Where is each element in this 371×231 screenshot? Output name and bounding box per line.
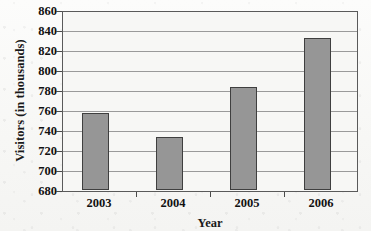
gridline-840	[63, 31, 357, 32]
bar-2006[interactable]	[304, 38, 331, 190]
x-tick-mark-1	[136, 192, 137, 197]
x-tick-label-2003: 2003	[67, 196, 131, 211]
x-axis-title: Year	[62, 216, 358, 231]
plot-area	[62, 11, 358, 192]
y-tick-label-860: 860	[0, 5, 57, 18]
y-tick-label-800: 800	[0, 65, 57, 78]
x-tick-label-2004: 2004	[141, 196, 205, 211]
x-tick-label-2005: 2005	[215, 196, 279, 211]
bar-chart: Visitors (in thousands) 860 840 820 800 …	[0, 0, 371, 231]
x-tick-label-2006: 2006	[289, 196, 353, 211]
bar-2004[interactable]	[156, 137, 183, 190]
bar-2003[interactable]	[82, 113, 109, 190]
y-tick-label-820: 820	[0, 45, 57, 58]
y-tick-label-780: 780	[0, 85, 57, 98]
x-tick-mark-2	[210, 192, 211, 197]
y-tick-label-700: 700	[0, 165, 57, 178]
y-tick-label-680: 680	[0, 185, 57, 198]
y-tick-label-740: 740	[0, 125, 57, 138]
bar-2005[interactable]	[230, 87, 257, 190]
y-tick-label-720: 720	[0, 145, 57, 158]
x-tick-mark-3	[284, 192, 285, 197]
y-tick-label-840: 840	[0, 25, 57, 38]
y-tick-label-760: 760	[0, 105, 57, 118]
